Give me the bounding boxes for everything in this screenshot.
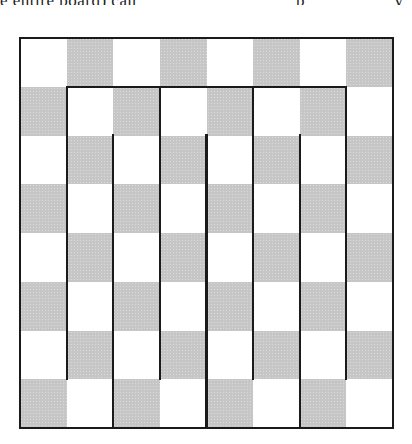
wall-vertical [252, 86, 254, 381]
wall-vertical [66, 86, 68, 381]
board-square [300, 282, 347, 331]
board-square [160, 282, 207, 331]
board-square [207, 331, 254, 380]
board-square [160, 87, 207, 136]
board-square [20, 331, 67, 380]
board-square [253, 379, 300, 428]
board-square [207, 282, 254, 331]
board-square [300, 331, 347, 380]
board-square [346, 233, 393, 282]
board-square [67, 233, 114, 282]
wall-vertical [299, 134, 301, 429]
board-square [253, 38, 300, 87]
board-square [160, 136, 207, 185]
board-square [113, 379, 160, 428]
board-square [207, 233, 254, 282]
wall-vertical [159, 86, 161, 381]
caption-fragment-1: p [296, 0, 305, 5]
board-square [207, 38, 254, 87]
border-left [19, 37, 21, 429]
board-square [300, 136, 347, 185]
board-square [300, 87, 347, 136]
board-square [207, 184, 254, 233]
board-square [207, 87, 254, 136]
board-square [346, 331, 393, 380]
board-square [67, 184, 114, 233]
board-square [300, 233, 347, 282]
wall-horizontal [66, 86, 348, 88]
checkerboard [20, 38, 393, 428]
caption-left: e entire board) can [0, 0, 136, 5]
board-square [160, 233, 207, 282]
board-square [346, 136, 393, 185]
board-square [253, 184, 300, 233]
board-square [160, 331, 207, 380]
board-square [207, 379, 254, 428]
board-square [67, 331, 114, 380]
board-square [67, 38, 114, 87]
board-square [300, 184, 347, 233]
board-square [20, 136, 67, 185]
board-square [300, 379, 347, 428]
board-square [253, 136, 300, 185]
board-square [253, 282, 300, 331]
board-square [113, 184, 160, 233]
board-square [113, 87, 160, 136]
board-square [67, 379, 114, 428]
board-square [346, 87, 393, 136]
board-square [160, 38, 207, 87]
border-top [19, 37, 394, 39]
board-square [67, 87, 114, 136]
board-square [346, 379, 393, 428]
board-square [20, 38, 67, 87]
board-square [113, 282, 160, 331]
caption-text: e entire board) can p y [0, 0, 412, 5]
board-square [20, 233, 67, 282]
board-square [113, 136, 160, 185]
board-square [346, 184, 393, 233]
board-square [160, 379, 207, 428]
board-square [253, 233, 300, 282]
board-square [113, 38, 160, 87]
board-square [20, 282, 67, 331]
board-square [20, 184, 67, 233]
caption-fragment-2: y [394, 0, 403, 5]
board-square [253, 331, 300, 380]
board-square [160, 184, 207, 233]
border-right [392, 37, 394, 429]
board-square [20, 87, 67, 136]
board-square [346, 38, 393, 87]
wall-vertical [112, 134, 114, 429]
board-square [67, 282, 114, 331]
board-square [253, 87, 300, 136]
board-square [207, 136, 254, 185]
board-square [113, 331, 160, 380]
board-square [346, 282, 393, 331]
board-square [300, 38, 347, 87]
board-square [113, 233, 160, 282]
board-square [20, 379, 67, 428]
wall-vertical [345, 86, 347, 381]
wall-vertical [205, 134, 207, 429]
board-square [67, 136, 114, 185]
